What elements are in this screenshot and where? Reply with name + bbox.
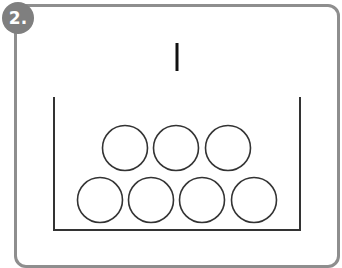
circle: [154, 126, 199, 171]
circle: [103, 126, 148, 171]
circle: [78, 178, 123, 223]
container: [54, 97, 300, 230]
circle: [129, 178, 174, 223]
diagram: [0, 0, 342, 268]
circle: [232, 178, 277, 223]
circle: [180, 178, 225, 223]
circle: [206, 126, 251, 171]
